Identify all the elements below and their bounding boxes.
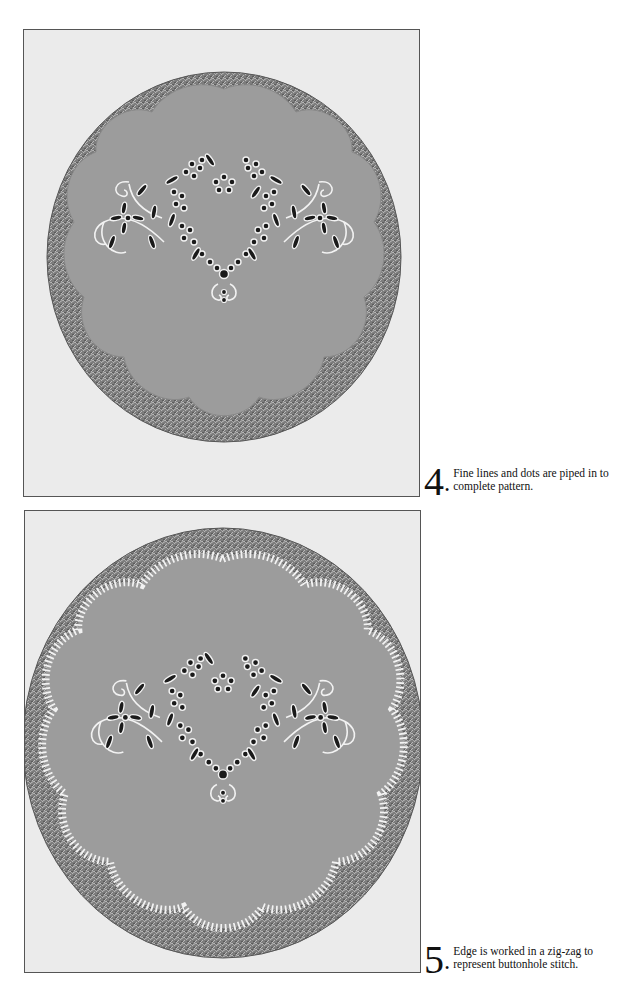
- step-5-caption: 5 • Edge is worked in a zig-zag to repre…: [424, 943, 633, 977]
- step-number: 5: [424, 943, 444, 977]
- step-4-caption: 4 • Fine lines and dots are piped in to …: [424, 465, 633, 499]
- cake-plaque-buttonhole-illustration: [25, 511, 420, 972]
- cake-plaque-illustration: [24, 30, 419, 496]
- step-4-photo: [23, 29, 420, 497]
- step-bullet: •: [445, 961, 449, 976]
- step-number: 4: [424, 465, 444, 499]
- step-bullet: •: [445, 483, 449, 498]
- step-text: Fine lines and dots are piped in to comp…: [453, 467, 633, 492]
- step-5-photo: [24, 510, 421, 973]
- step-text: Edge is worked in a zig-zag to represent…: [453, 945, 633, 970]
